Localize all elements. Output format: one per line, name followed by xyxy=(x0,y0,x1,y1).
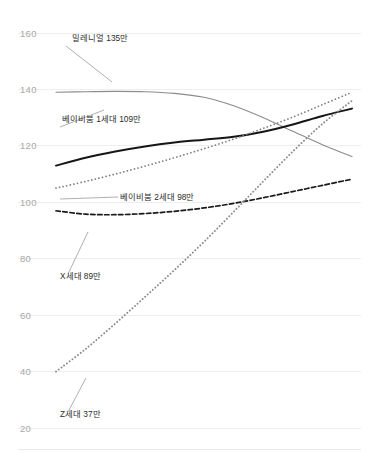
annotation-label-millennial: 밀레니얼 135만 xyxy=(72,33,128,43)
annotation-label-boomer2: 베이비붐 2세대 98만 xyxy=(120,192,194,202)
annotation-label-genz: Z세대 37만 xyxy=(60,409,101,419)
generation-population-chart: 16014012010080604020 밀레니얼 135만베이비붐 1세대 1… xyxy=(0,0,379,455)
chart-canvas: 16014012010080604020 밀레니얼 135만베이비붐 1세대 1… xyxy=(0,0,379,455)
y-tick-label-160: 160 xyxy=(20,28,37,39)
y-tick-label-20: 20 xyxy=(20,423,31,434)
y-tick-label-80: 80 xyxy=(20,253,31,264)
annotation-label-boomer1: 베이비붐 1세대 109만 xyxy=(62,114,141,124)
annotation-label-genx: X세대 89만 xyxy=(60,271,101,281)
y-tick-label-140: 140 xyxy=(20,84,37,95)
y-tick-label-60: 60 xyxy=(20,310,31,321)
y-tick-label-40: 40 xyxy=(20,366,31,377)
chart-background xyxy=(0,0,379,455)
y-tick-label-100: 100 xyxy=(20,197,37,208)
y-tick-label-120: 120 xyxy=(20,140,37,151)
